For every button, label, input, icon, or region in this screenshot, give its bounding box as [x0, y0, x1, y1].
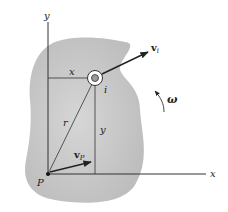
velocity-i-subscript: i: [157, 47, 159, 55]
y-axis-label: y: [43, 10, 50, 21]
x-axis-label: x: [210, 168, 216, 179]
velocity-i-label: vi: [150, 42, 159, 55]
diagram-canvas: y x x y r i P vi vP ω: [0, 0, 228, 212]
point-i-label: i: [104, 84, 107, 95]
y-distance-label: y: [99, 124, 106, 135]
velocity-p-subscript: P: [79, 154, 85, 162]
point-p-label: P: [36, 177, 44, 188]
omega-arrow: [155, 91, 164, 112]
point-i-inner-circle: [92, 75, 99, 82]
x-distance-label: x: [69, 66, 75, 77]
rigid-body-diagram: y x x y r i P vi vP ω: [0, 0, 228, 212]
point-p-dot: [46, 172, 50, 176]
omega-label: ω: [167, 93, 178, 106]
